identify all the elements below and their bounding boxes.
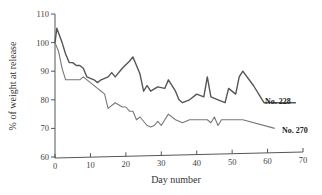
x-tick-label: 70: [299, 155, 308, 165]
x-tick-label: 0: [53, 161, 57, 171]
y-axis: 60708090100110: [36, 9, 55, 162]
plot-lines: [55, 28, 296, 128]
y-tick-label: 80: [41, 95, 50, 105]
x-tick-label: 10: [86, 160, 95, 170]
series-label-270: No. 270: [282, 126, 308, 135]
y-tick-label: 100: [36, 38, 49, 48]
y-axis-title: % of weight at release: [7, 41, 18, 130]
x-axis: 010203040506070: [53, 148, 307, 171]
series-label-228: No. 228: [265, 97, 291, 106]
y-tick-label: 60: [41, 152, 50, 162]
x-tick-label: 50: [228, 157, 237, 167]
series-line-228: [55, 28, 296, 102]
line-chart: 60708090100110 010203040506070 % of weig…: [0, 0, 322, 195]
y-tick-label: 90: [41, 66, 50, 76]
x-tick-label: 60: [263, 156, 272, 166]
series-line-270: [55, 43, 275, 129]
x-tick-label: 30: [157, 158, 166, 168]
y-tick-label: 110: [37, 9, 49, 19]
x-tick-label: 20: [122, 159, 131, 169]
x-tick-label: 40: [192, 158, 201, 168]
x-axis-title: Day number: [151, 174, 201, 185]
y-tick-label: 70: [41, 123, 50, 133]
